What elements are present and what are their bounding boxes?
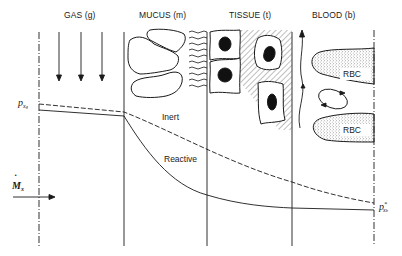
flux-arrow xyxy=(13,195,55,200)
region-label-tissue: TISSUE (t) xyxy=(229,10,271,20)
reactive-label: Reactive xyxy=(164,154,197,164)
region-label-gas: GAS (g) xyxy=(64,10,95,20)
region-label-blood: BLOOD (b) xyxy=(312,10,355,20)
rbc-label-top: RBC xyxy=(343,69,361,79)
mucus-cilia xyxy=(189,31,207,87)
region-label-mucus: MUCUS (m) xyxy=(139,10,186,20)
mucus-globules xyxy=(128,29,185,97)
inert-label: Inert xyxy=(162,112,179,122)
flux-label: ˙Mx xyxy=(12,180,24,191)
gas-uptake-diagram xyxy=(0,0,402,256)
start-pressure-label: pxg xyxy=(18,97,28,108)
blood-flow-arrow xyxy=(299,30,305,128)
eddy-circulation-icon xyxy=(316,85,350,112)
gas-flow-arrows xyxy=(57,32,105,81)
end-pressure-label: p*xb xyxy=(379,201,388,212)
rbc-label-bottom: RBC xyxy=(343,125,361,135)
